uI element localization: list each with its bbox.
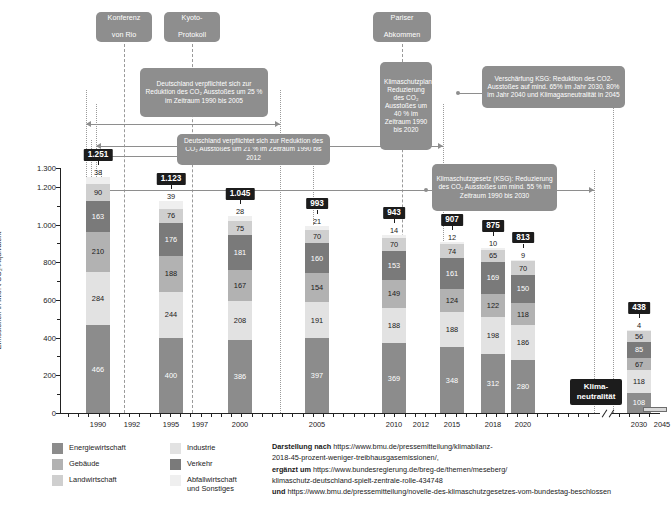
- x-tick: [517, 413, 518, 417]
- legend-label: Landwirtschaft: [69, 475, 117, 484]
- target-box-2012: Deutschland verpflichtet sich zur Redukt…: [177, 134, 330, 165]
- x-tick: [88, 413, 89, 417]
- bar-segment: 70: [382, 238, 406, 251]
- bar-segment: [305, 226, 329, 230]
- bar-segment: 181: [228, 235, 252, 269]
- bar-1995[interactable]: 40024418817676391.123: [159, 168, 183, 413]
- y-tick-minor: [57, 206, 60, 207]
- bar-segment: [382, 235, 406, 238]
- legend-label: Abfallwirtschaftund Sonstiges: [187, 475, 237, 494]
- x-tick: [241, 413, 242, 417]
- total-connector: [98, 161, 99, 165]
- x-tick: [456, 413, 457, 417]
- bar-segment: 312: [481, 354, 505, 413]
- x-tick-label-2010: 2010: [386, 420, 402, 429]
- total-connector: [171, 185, 172, 189]
- bar-2010[interactable]: 3691881491537014943: [382, 168, 406, 413]
- x-tick: [68, 413, 69, 417]
- bar-total-1995: 1.123: [157, 173, 186, 185]
- bar-segment: 186: [511, 325, 535, 360]
- event-label-line1: Konferenz: [100, 14, 148, 23]
- event-box-pariser-abkommen: Pariser Abkommen: [373, 12, 431, 42]
- legend-label: Industrie: [187, 443, 215, 452]
- bar-2005[interactable]: 3971911541607021993: [305, 168, 329, 413]
- bar-segment: 56: [627, 331, 651, 342]
- x-tick: [629, 413, 630, 417]
- total-connector: [452, 226, 453, 230]
- y-axis: [60, 168, 61, 413]
- x-tick: [364, 413, 365, 417]
- bar-segment: 386: [228, 340, 252, 413]
- bar-segment: 167: [228, 270, 252, 301]
- x-tick: [272, 413, 273, 417]
- total-connector: [317, 210, 318, 214]
- x-tick: [313, 413, 314, 417]
- bar-2020[interactable]: 280186118150709813: [511, 168, 535, 413]
- y-tick: [56, 338, 60, 339]
- bar-segment: 67: [627, 358, 651, 371]
- total-connector: [394, 219, 395, 223]
- x-tick-label-2000: 2000: [232, 420, 248, 429]
- bar-segment-label: 4: [627, 321, 651, 330]
- source-label-und: und: [272, 487, 287, 496]
- y-tick-label: 1.000: [37, 220, 56, 229]
- bar-2000[interactable]: 38620816718175281.045: [228, 168, 252, 413]
- bar-segment: 188: [440, 312, 464, 347]
- y-tick: [56, 413, 60, 414]
- bar-segment: 74: [440, 244, 464, 258]
- bar-total-2005: 993: [306, 198, 328, 210]
- x-tick: [405, 413, 406, 417]
- source-label-darstellung: Darstellung nach: [272, 442, 333, 451]
- x-tick: [568, 413, 569, 417]
- source-url-1: https://www.bmu.de/pressemitteilung/klim…: [333, 442, 492, 451]
- bar-segment: [511, 260, 535, 262]
- bar-segment: [627, 330, 651, 331]
- event-label-line2: von Rio: [100, 31, 148, 40]
- x-tick: [619, 413, 620, 417]
- bar-segment: 161: [440, 258, 464, 288]
- bar-segment-label: 10: [481, 239, 505, 248]
- y-tick-minor: [57, 281, 60, 282]
- legend-swatch: [52, 443, 63, 454]
- x-tick: [150, 413, 151, 417]
- legend-item: Abfallwirtschaftund Sonstiges: [170, 475, 237, 494]
- legend-item: Industrie: [170, 443, 215, 454]
- bar-segment: 150: [511, 275, 535, 303]
- x-tick: [558, 413, 559, 417]
- bar-segment: 163: [86, 201, 110, 232]
- source-note: Darstellung nach https://www.bmu.de/pres…: [272, 441, 670, 497]
- legend-label: Gebäude: [69, 459, 99, 468]
- x-tick: [333, 413, 334, 417]
- y-axis-title: Emissionen in Mio. t CO₂-Äquivalent: [0, 168, 6, 413]
- bar-2015[interactable]: 3481881241617412907: [440, 168, 464, 413]
- x-tick: [547, 413, 548, 417]
- target-text-2005: Deutschland verpflichtet sich zur Redukt…: [144, 80, 264, 104]
- legend-item: Energiewirtschaft: [52, 443, 126, 454]
- y-tick-label: 0: [52, 409, 56, 418]
- legend-swatch: [52, 475, 63, 486]
- bar-segment: 122: [481, 294, 505, 317]
- x-tick: [537, 413, 538, 417]
- bar-segment: [440, 242, 464, 244]
- x-tick-label-2012: 2012: [413, 420, 429, 429]
- y-tick-minor: [57, 243, 60, 244]
- bar-2018[interactable]: 3121981221696510875: [481, 168, 505, 413]
- bar-segment: 284: [86, 272, 110, 326]
- bar-segment: 280: [511, 360, 535, 413]
- arrow-right-icon: [275, 121, 280, 127]
- bar-segment: 149: [382, 280, 406, 308]
- x-tick: [303, 413, 304, 417]
- bar-segment-label: 28: [228, 207, 252, 216]
- bar-2030[interactable]: 1081186785564438: [627, 168, 651, 413]
- x-tick: [170, 413, 171, 417]
- y-tick-label: 200: [43, 371, 56, 380]
- x-tick: [109, 413, 110, 417]
- x-tick: [425, 413, 426, 417]
- source-url-2b: klimaschutz-deutschland-spielt-zentrale-…: [272, 476, 443, 485]
- bar-segment-label: 9: [511, 251, 535, 260]
- bar-segment: [159, 201, 183, 208]
- bar-1990[interactable]: 46628421016390381.251: [86, 168, 110, 413]
- x-tick: [323, 413, 324, 417]
- bar-segment: 70: [511, 261, 535, 274]
- bar-total-2018: 875: [482, 220, 504, 232]
